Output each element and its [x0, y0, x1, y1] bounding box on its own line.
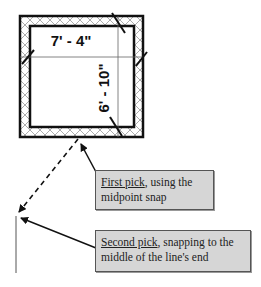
second-pick-callout: Second pick, snapping to the middle of t…: [95, 230, 251, 272]
first-pick-callout: First pick, using the midpoint snap: [95, 170, 214, 210]
first-pick-arrow: [81, 144, 96, 172]
second-pick-emphasis: Second pick: [101, 236, 158, 248]
dashed-pick-path: [19, 139, 78, 212]
horizontal-dimension-label: 7' - 4": [51, 32, 92, 49]
second-pick-arrow: [21, 218, 96, 248]
first-pick-emphasis: First pick: [101, 176, 145, 188]
vertical-dimension-label: 6' - 10": [95, 63, 112, 112]
